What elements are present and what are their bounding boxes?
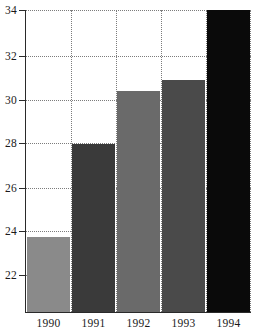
x-tick-label-1993: 1993: [161, 317, 206, 329]
y-tick-mark-28: [19, 143, 25, 144]
y-tick-label-34: 34: [0, 5, 17, 17]
x-tick-label-1991: 1991: [71, 317, 116, 329]
y-tick-label-32: 32: [0, 51, 17, 63]
y-tick-label-24: 24: [0, 226, 17, 238]
y-tick-label-22: 22: [0, 270, 17, 282]
y-tick-mark-34: [19, 10, 25, 11]
y-tick-mark-24: [19, 231, 25, 232]
x-tick-label-1992: 1992: [116, 317, 161, 329]
bar-1991[interactable]: [72, 144, 114, 312]
plot-area: [26, 10, 251, 312]
y-tick-label-28: 28: [0, 138, 17, 150]
bar-1994[interactable]: [207, 10, 249, 312]
bar-chart: 22 24 26 28 30 32 34 1990 1991 1992 1993…: [0, 0, 254, 335]
bar-1993[interactable]: [162, 80, 204, 312]
x-axis-line: [25, 312, 251, 313]
y-tick-label-30: 30: [0, 95, 17, 107]
x-tick-label-1994: 1994: [206, 317, 251, 329]
bar-1990[interactable]: [27, 237, 69, 313]
y-tick-label-26: 26: [0, 183, 17, 195]
y-tick-mark-30: [19, 100, 25, 101]
y-tick-mark-22: [19, 275, 25, 276]
x-tick-label-1990: 1990: [26, 317, 71, 329]
y-axis-line: [25, 10, 26, 313]
y-tick-mark-26: [19, 188, 25, 189]
bar-1992[interactable]: [117, 91, 159, 312]
y-tick-mark-32: [19, 56, 25, 57]
